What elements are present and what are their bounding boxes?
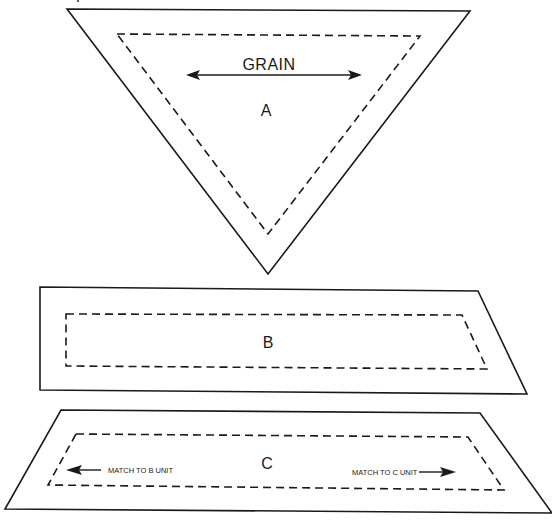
left-arrow-icon: [66, 465, 101, 475]
grain-label: GRAIN: [242, 56, 295, 73]
piece-b-cut-line: [40, 287, 527, 394]
piece-c-seam-line: [48, 434, 504, 490]
right-arrow-icon: [419, 467, 456, 477]
match-to-c-note: MATCH TO C UNIT: [352, 468, 418, 477]
piece-c: C MATCH TO B UNIT MATCH TO C UNIT: [5, 410, 552, 513]
piece-b: B: [40, 287, 527, 394]
quilt-pattern-diagram: GRAIN A B C MATCH TO B UNIT MATCH TO C U…: [0, 0, 552, 532]
piece-c-label: C: [261, 455, 273, 472]
match-to-b-note: MATCH TO B UNIT: [108, 466, 173, 475]
piece-c-cut-line: [5, 410, 552, 513]
piece-b-seam-line: [66, 314, 487, 369]
piece-b-label: B: [263, 334, 274, 351]
piece-a: GRAIN A: [67, 9, 470, 274]
piece-a-label: A: [261, 102, 272, 119]
